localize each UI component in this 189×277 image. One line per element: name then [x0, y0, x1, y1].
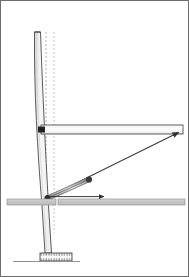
ram-head-pin — [86, 176, 92, 182]
ground-bar-left — [7, 199, 56, 205]
boom-root-pin — [38, 127, 45, 133]
base-block-body — [40, 253, 72, 261]
mast-column — [34, 32, 51, 253]
ground-bar-right — [58, 199, 185, 205]
boom-body — [41, 125, 183, 134]
diagram-canvas — [1, 1, 189, 277]
diagram-frame: Deflected mast with boom, tie cable and … — [0, 0, 189, 277]
foundation-base-block — [40, 253, 72, 261]
horizontal-boom — [41, 125, 183, 134]
hydraulic-ram — [45, 176, 93, 201]
